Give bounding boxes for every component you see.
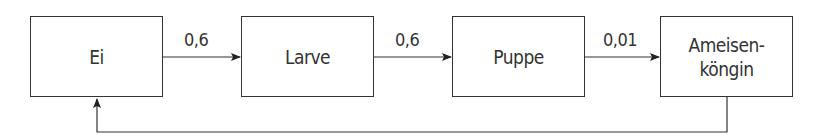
node-ei: Ei — [30, 16, 163, 97]
node-puppe: Puppe — [452, 16, 585, 97]
edge-label-ei-larve: 0,6 — [184, 29, 208, 50]
node-ameisenkoenigin: Ameisen- köngin — [660, 16, 793, 97]
node-label: Puppe — [493, 45, 544, 69]
node-label: Larve — [285, 45, 330, 69]
node-label-line2: köngin — [700, 57, 754, 81]
node-larve: Larve — [241, 16, 374, 97]
edge-label-puppe-koenigin: 0,01 — [603, 29, 637, 50]
node-label-line1: Ameisen- — [688, 33, 764, 57]
edge-label-larve-puppe: 0,6 — [395, 29, 419, 50]
node-label: Ei — [89, 45, 104, 69]
